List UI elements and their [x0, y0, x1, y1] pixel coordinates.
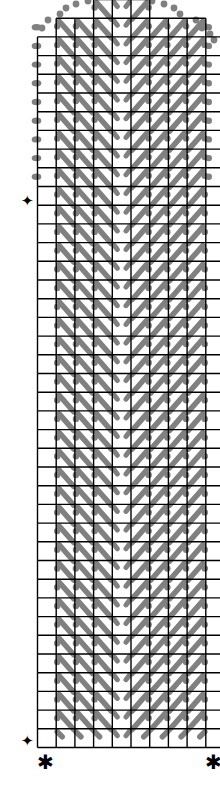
stitch-dot	[183, 98, 189, 104]
stitch-dot	[73, 1, 80, 8]
stitch-diagonal	[151, 40, 166, 57]
stitch-dot	[183, 696, 189, 702]
stitch-diagonal	[126, 115, 129, 119]
stitch-dot	[164, 42, 170, 48]
stitch-diagonal	[126, 246, 129, 250]
stitch-diagonal	[59, 451, 74, 468]
stitch-diagonal	[76, 732, 81, 737]
stitch-diagonal	[97, 59, 112, 76]
stitch-diagonal	[126, 320, 129, 324]
stitch-diagonal	[114, 40, 117, 44]
stitch-dot	[202, 565, 208, 571]
stitch-dot	[183, 397, 189, 403]
stitch-dot	[146, 547, 152, 553]
stitch-diagonal	[132, 227, 147, 244]
stitch-diagonal	[151, 582, 166, 599]
stitch-diagonal	[78, 264, 93, 281]
stitch-dot	[146, 565, 152, 571]
stitch-diagonal	[114, 545, 117, 549]
stitch-diagonal	[114, 676, 117, 680]
stitch-diagonal	[126, 564, 129, 568]
stitch-dot	[146, 247, 152, 253]
stitch-dot	[183, 23, 189, 29]
stitch-diagonal	[126, 190, 129, 194]
stitch-diagonal	[114, 713, 117, 717]
stitch-diagonal	[169, 264, 184, 281]
stitch-diagonal	[126, 433, 129, 437]
stitch-diagonal	[126, 489, 129, 493]
stitch-diagonal	[114, 77, 117, 81]
stitch-diagonal	[126, 694, 129, 698]
stitch-diagonal	[151, 713, 166, 730]
stitch-dot	[202, 472, 208, 478]
stitch-dot	[183, 285, 189, 291]
stitch-diagonal	[59, 507, 74, 524]
stitch-diagonal	[151, 657, 166, 674]
stitch-diagonal	[169, 507, 184, 524]
stitch-diagonal	[132, 152, 147, 169]
stitch-diagonal	[188, 227, 203, 244]
stitch-diagonal	[59, 190, 74, 207]
stitch-dot	[206, 80, 212, 86]
stitch-dot	[164, 304, 170, 310]
stitch-diagonal	[188, 433, 203, 450]
stitch-dot	[146, 509, 152, 515]
stitch-dot	[164, 322, 170, 328]
stitch-diagonal	[151, 190, 166, 207]
stitch-diagonal	[151, 227, 166, 244]
stitch-dot	[202, 434, 208, 440]
stitch-diagonal	[188, 40, 203, 57]
stitch-diagonal	[169, 283, 184, 300]
stitch-diagonal	[114, 171, 117, 175]
stitch-diagonal	[132, 264, 147, 281]
stitch-diagonal	[114, 227, 117, 231]
stitch-diagonal	[78, 676, 93, 693]
stitch-diagonal	[151, 59, 166, 76]
stitch-diagonal	[114, 507, 117, 511]
stitch-dot	[211, 37, 218, 44]
stitch-dot	[164, 659, 170, 665]
stitch-dot	[183, 191, 189, 197]
stitch-diagonal	[188, 339, 203, 356]
stitch-diagonal	[126, 507, 129, 511]
stitch-diagonal	[188, 601, 203, 618]
stitch-diagonal	[114, 489, 117, 493]
stitch-dot	[164, 397, 170, 403]
stitch-diagonal	[126, 171, 129, 175]
stitch-dot	[32, 118, 42, 124]
stitch-diagonal	[132, 638, 147, 655]
stitch-dot	[146, 434, 152, 440]
stitch-diagonal	[114, 433, 117, 437]
stitch-diagonal	[151, 676, 166, 693]
stitch-diagonal	[132, 96, 147, 113]
stitch-diagonal	[97, 115, 112, 132]
stitch-diagonal	[169, 545, 184, 562]
stitch-dot	[164, 98, 170, 104]
stitch-dot	[146, 696, 152, 702]
stitch-diagonal	[132, 208, 147, 225]
stitch-dot	[39, 25, 46, 32]
stitch-dot	[183, 210, 189, 216]
row-marker-diamond-top: ✦	[21, 194, 34, 209]
stitch-diagonal	[114, 564, 117, 568]
stitch-dot	[183, 678, 189, 684]
stitch-dot	[202, 397, 208, 403]
stitch-diagonal	[188, 377, 203, 394]
stitch-diagonal	[132, 676, 147, 693]
stitch-diagonal	[78, 171, 93, 188]
stitch-diagonal	[59, 152, 74, 169]
stitch-dot	[45, 17, 52, 24]
stitch-dot	[164, 60, 170, 66]
stitch-diagonal	[188, 470, 203, 487]
stitch-diagonal	[169, 339, 184, 356]
stitch-diagonal	[200, 732, 205, 737]
stitch-diagonal	[188, 152, 203, 169]
stitch-diagonal	[169, 601, 184, 618]
stitch-diagonal	[126, 77, 129, 81]
stitch-diagonal	[78, 302, 93, 319]
stitch-diagonal	[126, 302, 129, 306]
stitch-diagonal	[97, 190, 112, 207]
stitch-dot	[202, 191, 208, 197]
stitch-diagonal	[59, 77, 74, 94]
stitch-diagonal	[114, 208, 117, 212]
